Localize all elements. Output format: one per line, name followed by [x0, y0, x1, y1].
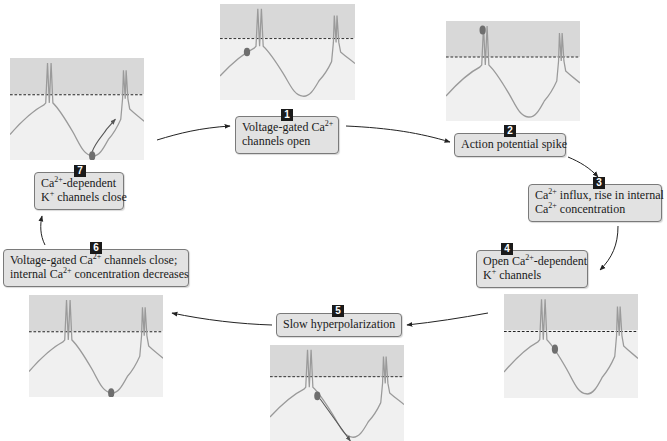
- step-text-line-2: channels open: [242, 134, 332, 148]
- state-marker-dot: [552, 344, 558, 353]
- voltage-trace: [446, 21, 580, 121]
- state-marker-dot: [89, 151, 95, 160]
- state-marker-dot: [108, 388, 114, 397]
- arrow-4-to-5-icon: [407, 313, 488, 325]
- arrow-2-icon: [346, 126, 450, 142]
- step-text-line-1: Open Ca2+-dependent: [483, 254, 581, 268]
- step-box-2: 2 Action potential spike: [454, 133, 566, 157]
- step-text-line-2: internal Ca2+ concentration decreases: [10, 267, 182, 281]
- panel-step-6: [29, 295, 163, 397]
- panel-step-1: [220, 4, 355, 100]
- step-text-line-1: Voltage-gated Ca2+: [242, 120, 332, 134]
- step-text-line-1: Slow hyperpolarization: [283, 317, 395, 331]
- step-box-4: 4 Open Ca2+-dependent K+ channels: [476, 250, 588, 288]
- step-box-7: 7 Ca2+-dependent K+ channels close: [34, 172, 124, 210]
- voltage-trace: [29, 295, 163, 397]
- voltage-trace: [504, 294, 638, 398]
- step-number-badge: 7: [74, 165, 86, 177]
- arrow-6-to-7-icon: [41, 216, 45, 245]
- state-marker-dot: [480, 26, 486, 35]
- voltage-trace: [270, 345, 404, 441]
- step-box-6: 6 Voltage-gated Ca2+ channels close; int…: [3, 249, 189, 287]
- voltage-trace: [10, 58, 144, 160]
- panel-step-2: [446, 21, 580, 121]
- step-number-badge: 4: [501, 243, 513, 255]
- step-number-badge: 5: [332, 305, 344, 317]
- arrow-3-to-4-icon: [600, 226, 618, 270]
- step-box-3: 3 Ca2+ influx, rise in internal Ca2+ con…: [528, 184, 662, 222]
- state-marker-dot: [314, 392, 320, 401]
- panel-step-5: [270, 345, 404, 441]
- step-text-line-1: Voltage-gated Ca2+ channels close;: [10, 253, 182, 267]
- arrow-5-to-6-icon: [172, 313, 272, 325]
- voltage-trace: [220, 4, 355, 100]
- step-box-1: 1 Voltage-gated Ca2+ channels open: [235, 116, 339, 154]
- step-text-line-2: K+ channels close: [41, 190, 117, 204]
- step-text-line-1: Ca2+-dependent: [41, 176, 117, 190]
- step-text-line-1: Action potential spike: [461, 137, 559, 151]
- arrow-7-to-1-icon: [157, 126, 230, 140]
- step-text-line-1: Ca2+ influx, rise in internal: [535, 188, 655, 202]
- state-marker-dot: [244, 48, 250, 57]
- descending-arrow-icon: [320, 399, 350, 441]
- step-number-badge: 6: [90, 242, 102, 254]
- step-number-badge: 1: [281, 109, 293, 121]
- arrow-2-to-3-icon: [568, 157, 598, 177]
- panel-step-4: [504, 294, 638, 398]
- step-text-line-2: K+ channels: [483, 268, 581, 282]
- step-number-badge: 3: [593, 177, 605, 189]
- step-box-5: 5 Slow hyperpolarization: [276, 313, 402, 337]
- step-number-badge: 2: [504, 125, 516, 137]
- step-text-line-2: Ca2+ concentration: [535, 202, 655, 216]
- panel-step-7: [10, 58, 144, 160]
